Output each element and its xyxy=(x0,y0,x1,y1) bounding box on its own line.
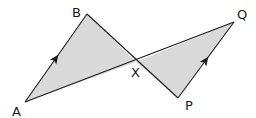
label-a: A xyxy=(12,104,21,118)
triangle-xpq-shaded xyxy=(136,22,234,98)
label-x: X xyxy=(131,65,140,80)
label-q: Q xyxy=(237,7,247,22)
triangle-abx-shaded xyxy=(25,14,136,102)
label-b: B xyxy=(72,5,81,20)
geometry-diagram: A B X P Q xyxy=(0,0,256,118)
label-p: P xyxy=(185,98,193,113)
